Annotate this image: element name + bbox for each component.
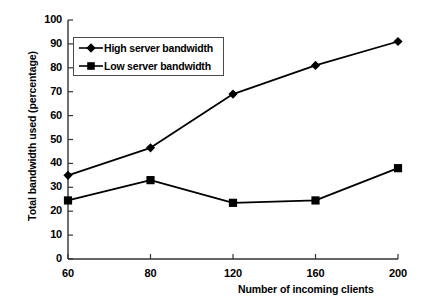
x-tick-label: 200 [378, 267, 418, 279]
y-tick-label: 0 [32, 252, 62, 264]
y-tick-label: 70 [32, 85, 62, 97]
x-tick-label: 120 [213, 267, 253, 279]
y-tick-label: 80 [32, 61, 62, 73]
y-tick-label: 100 [32, 13, 62, 25]
y-tick-label: 60 [32, 109, 62, 121]
series-square [64, 164, 402, 207]
legend-item-low-server-bandwidth: Low server bandwidth [78, 57, 211, 75]
x-tick-label: 160 [296, 267, 336, 279]
y-tick-label: 40 [32, 156, 62, 168]
x-axis-ticks [68, 254, 398, 259]
legend-item-high-server-bandwidth: High server bandwidth [78, 39, 213, 57]
legend-label: High server bandwidth [104, 42, 213, 54]
legend-label: Low server bandwidth [104, 60, 211, 72]
square-marker-icon [78, 59, 104, 73]
x-tick-label: 80 [131, 267, 171, 279]
chart-legend: High server bandwidth Low server bandwid… [73, 37, 224, 76]
chart-figure: Total bandwidth used (percentage) Number… [0, 0, 422, 306]
x-tick-label: 60 [48, 267, 88, 279]
y-tick-label: 90 [32, 37, 62, 49]
y-tick-label: 50 [32, 133, 62, 145]
diamond-marker-icon [78, 41, 104, 55]
y-tick-label: 30 [32, 180, 62, 192]
y-tick-label: 10 [32, 228, 62, 240]
y-tick-label: 20 [32, 204, 62, 216]
